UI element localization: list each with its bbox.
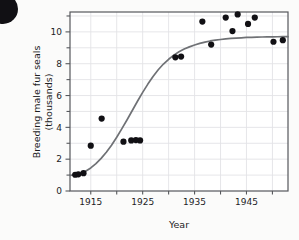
y-tick-label: 0 bbox=[56, 186, 62, 196]
y-axis-title-line2: (thousands) bbox=[43, 74, 54, 131]
data-point bbox=[172, 54, 178, 60]
data-point bbox=[223, 14, 229, 20]
x-axis-tick-labels: 1915192519351945 bbox=[79, 197, 258, 207]
y-tick-label: 8 bbox=[56, 59, 62, 69]
data-point bbox=[252, 14, 258, 20]
plot-panel bbox=[70, 12, 288, 191]
x-tick-label: 1925 bbox=[131, 197, 154, 207]
y-tick-label: 10 bbox=[51, 27, 63, 37]
y-axis-title-line1: Breeding male fur seals bbox=[31, 46, 42, 159]
figure-container: 1915192519351945 0246810 Year Breeding m… bbox=[0, 0, 299, 240]
data-point bbox=[137, 137, 143, 143]
x-axis-title: Year bbox=[168, 219, 189, 230]
data-point bbox=[208, 42, 214, 48]
y-tick-label: 4 bbox=[56, 123, 62, 133]
x-tick-label: 1945 bbox=[235, 197, 258, 207]
x-tick-label: 1935 bbox=[183, 197, 206, 207]
data-point bbox=[235, 11, 241, 17]
data-point bbox=[199, 18, 205, 24]
y-tick-label: 2 bbox=[56, 154, 62, 164]
data-point bbox=[270, 39, 276, 45]
data-point bbox=[99, 116, 105, 122]
y-axis-ticks bbox=[66, 16, 71, 191]
data-point bbox=[245, 21, 251, 27]
data-point bbox=[88, 143, 94, 149]
data-point bbox=[75, 171, 81, 177]
data-point bbox=[80, 170, 86, 176]
x-tick-label: 1915 bbox=[79, 197, 102, 207]
data-point bbox=[178, 53, 184, 59]
data-point bbox=[120, 139, 126, 145]
data-point bbox=[280, 37, 286, 43]
y-tick-label: 6 bbox=[56, 91, 62, 101]
data-point bbox=[229, 28, 235, 34]
scatter-plot: 1915192519351945 0246810 Year Breeding m… bbox=[0, 0, 299, 240]
